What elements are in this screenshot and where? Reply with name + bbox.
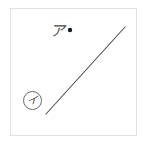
point-label-a: ア — [50, 24, 65, 39]
figure-root: ア イ — [0, 0, 148, 150]
line-label-i-circle: イ — [23, 91, 42, 110]
line-label-i-glyph: イ — [27, 95, 38, 106]
figure-drawing-layer — [0, 0, 148, 150]
diagonal-line-segment — [46, 27, 125, 114]
marked-point — [68, 28, 72, 32]
